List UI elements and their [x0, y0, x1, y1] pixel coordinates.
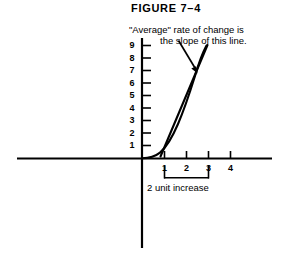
- y-tick-label-8: 8: [126, 53, 138, 63]
- secant-line: [161, 45, 208, 157]
- curve-path: [142, 46, 206, 159]
- figure-container: FIGURE 7–4 "Average" rate of change is t…: [0, 0, 304, 258]
- y-tick-label-5: 5: [126, 90, 138, 100]
- y-axis-ticks: [142, 46, 151, 146]
- x-tick-label-4: 4: [225, 163, 237, 173]
- x-axis-ticks: [165, 151, 231, 158]
- y-tick-label-1: 1: [126, 140, 138, 150]
- callout-arrow-icon: [179, 41, 198, 74]
- y-tick-label-7: 7: [126, 65, 138, 75]
- y-tick-label-2: 2: [126, 128, 138, 138]
- y-tick-label-4: 4: [126, 103, 138, 113]
- x-tick-label-2: 2: [181, 163, 193, 173]
- y-tick-label-3: 3: [126, 115, 138, 125]
- unit-increase-label: 2 unit increase: [147, 182, 209, 193]
- x-tick-label-1: 1: [159, 163, 171, 173]
- coordinate-plot: [0, 0, 304, 258]
- y-tick-label-6: 6: [126, 78, 138, 88]
- x-tick-label-3: 3: [203, 163, 215, 173]
- y-tick-label-9: 9: [126, 40, 138, 50]
